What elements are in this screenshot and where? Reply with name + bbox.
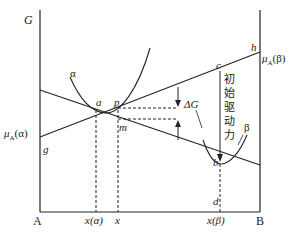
point-p-label: p: [114, 97, 120, 108]
alpha-curve-label: α: [70, 68, 76, 79]
delta-g-arrowhead-up: [175, 120, 181, 127]
point-m-label: m: [119, 122, 127, 133]
driving-force-char-1: 初: [223, 73, 235, 87]
point-c-label: c: [216, 60, 221, 71]
point-g-label: g: [43, 144, 49, 155]
endpoint-b-label: B: [256, 215, 264, 227]
y-axis-label: G: [24, 14, 33, 26]
driving-force-char-2: 始: [223, 87, 235, 101]
driving-force-char-4: 动: [223, 115, 235, 129]
delta-g-leader: [196, 110, 202, 128]
mu-alpha-label: μA(α): [4, 128, 28, 142]
point-d-label: d: [213, 196, 219, 207]
mu-alpha-phase: (α): [15, 127, 28, 139]
x-alpha-tick-label: x(α): [85, 215, 103, 226]
mu-beta-phase: (β): [273, 52, 286, 64]
mu-beta-label: μA(β): [262, 53, 286, 67]
endpoint-a-label: A: [33, 215, 42, 227]
driving-force-char-3: 驱: [223, 101, 235, 115]
x-tick-label: x: [115, 215, 120, 226]
delta-g-arrowhead-down: [175, 100, 181, 107]
point-a-label: a: [96, 97, 102, 108]
delta-g-label: ΔG: [184, 99, 198, 110]
beta-curve-label: β: [244, 122, 250, 133]
beta-leader: [238, 135, 243, 145]
free-energy-diagram: [0, 0, 296, 234]
driving-force-char-5: 力: [223, 129, 235, 143]
point-h-label: h: [251, 42, 257, 53]
x-beta-tick-label: x(β): [207, 215, 225, 226]
point-b-label: b: [213, 157, 219, 168]
initial-driving-force-label: 初 始 驱 动 力: [223, 73, 235, 143]
alpha-curve: [70, 48, 150, 113]
